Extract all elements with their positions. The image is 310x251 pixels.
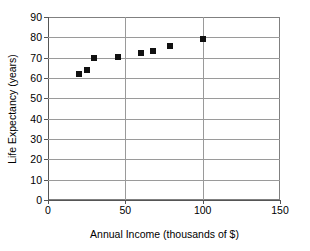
y-tick-20 xyxy=(44,159,48,160)
data-point xyxy=(84,67,90,73)
y-tick-70 xyxy=(44,58,48,59)
y-tick-40 xyxy=(44,119,48,120)
y-axis-title: Life Expectancy (years) xyxy=(6,34,18,184)
y-tick-50 xyxy=(44,98,48,99)
y-tick-10 xyxy=(44,180,48,181)
data-point xyxy=(200,36,206,42)
y-tick-label-60: 60 xyxy=(16,73,42,83)
y-tick-label-50: 50 xyxy=(16,93,42,103)
gridline-y-80 xyxy=(48,37,280,38)
y-tick-label-40: 40 xyxy=(16,114,42,124)
gridline-y-60 xyxy=(48,78,280,79)
y-axis-line xyxy=(48,17,49,201)
gridline-y-30 xyxy=(48,139,280,140)
gridline-y-50 xyxy=(48,98,280,99)
x-tick-label-100: 100 xyxy=(186,205,220,216)
y-tick-label-80: 80 xyxy=(16,32,42,42)
x-axis-line xyxy=(48,200,281,201)
data-point xyxy=(150,48,156,54)
scatter-chart: 0102030405060708090 050100150 Annual Inc… xyxy=(0,0,310,251)
x-tick-label-50: 50 xyxy=(108,205,142,216)
y-tick-label-90: 90 xyxy=(16,12,42,22)
y-tick-label-10: 10 xyxy=(16,175,42,185)
data-point xyxy=(138,50,144,56)
data-point xyxy=(115,54,121,60)
gridline-y-70 xyxy=(48,58,280,59)
y-tick-90 xyxy=(44,17,48,18)
gridline-y-20 xyxy=(48,159,280,160)
y-tick-label-20: 20 xyxy=(16,154,42,164)
y-tick-80 xyxy=(44,37,48,38)
data-point xyxy=(76,71,82,77)
gridline-x-100 xyxy=(203,17,204,200)
data-point xyxy=(167,43,173,49)
y-tick-60 xyxy=(44,78,48,79)
y-tick-label-30: 30 xyxy=(16,134,42,144)
x-tick-label-0: 0 xyxy=(31,205,65,216)
y-tick-label-0: 0 xyxy=(16,195,42,205)
gridline-x-50 xyxy=(125,17,126,200)
gridline-y-40 xyxy=(48,119,280,120)
y-tick-30 xyxy=(44,139,48,140)
gridline-y-10 xyxy=(48,180,280,181)
data-point xyxy=(91,55,97,61)
x-axis-title: Annual Income (thousands of $) xyxy=(48,228,281,240)
x-tick-label-150: 150 xyxy=(263,205,297,216)
plot-area xyxy=(48,17,280,200)
y-tick-label-70: 70 xyxy=(16,53,42,63)
